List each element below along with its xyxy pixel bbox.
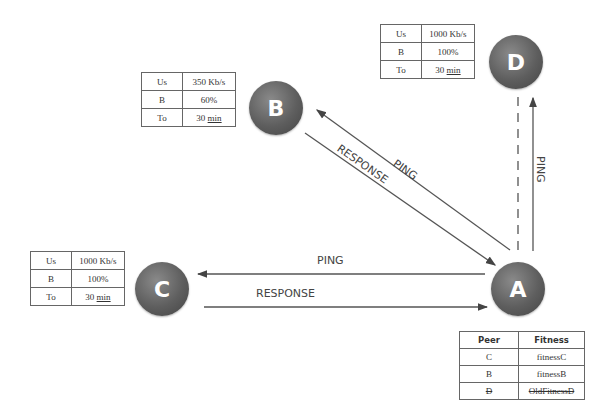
node-a-label: A <box>509 277 526 302</box>
cell-key: Us <box>142 73 183 91</box>
info-table-b: Us350 Kb/s B60% To30 min <box>141 72 236 127</box>
info-table-c: Us1000 Kb/s B100% To30 min <box>30 251 125 306</box>
value-number: 30 <box>435 65 444 75</box>
cell-peer: B <box>460 366 519 383</box>
label-a-to-c-ping: PING <box>317 254 344 267</box>
node-d-label: D <box>507 50 525 75</box>
cell-key: B <box>31 270 72 288</box>
cell-value: 100% <box>72 270 125 288</box>
node-b: B <box>249 81 303 135</box>
cell-value: 100% <box>422 43 475 61</box>
cell-fitness: fitnessB <box>519 366 585 383</box>
cell-value: 30 min <box>422 61 475 79</box>
value-unit: min <box>447 65 461 75</box>
edge-b-to-a-response <box>305 133 495 265</box>
cell-key: To <box>381 61 422 79</box>
header-fitness: Fitness <box>519 332 585 349</box>
value-number: 30 <box>196 113 205 123</box>
cell-key: To <box>142 109 183 127</box>
node-b-label: B <box>268 96 285 121</box>
cell-value: 30 min <box>72 288 125 306</box>
value-number: 30 <box>85 292 94 302</box>
cell-key: To <box>31 288 72 306</box>
cell-fitness: OldFitnessD <box>519 383 585 400</box>
table-row: B fitnessB <box>460 366 585 383</box>
node-c: C <box>135 262 189 316</box>
table-row-struck: D OldFitnessD <box>460 383 585 400</box>
header-peer: Peer <box>460 332 519 349</box>
value-unit: min <box>208 113 222 123</box>
node-a: A <box>491 262 545 316</box>
cell-value: 350 Kb/s <box>183 73 236 91</box>
cell-value: 60% <box>183 91 236 109</box>
cell-peer: D <box>460 383 519 400</box>
info-table-d: Us1000 Kb/s B100% To30 min <box>380 24 475 79</box>
cell-key: Us <box>31 252 72 270</box>
label-c-to-a-response: RESPONSE <box>256 287 315 300</box>
label-a-to-d-ping: PING <box>534 156 547 183</box>
cell-value: 30 min <box>183 109 236 127</box>
cell-peer: C <box>460 349 519 366</box>
cell-value: 1000 Kb/s <box>72 252 125 270</box>
node-c-label: C <box>154 277 170 302</box>
node-d: D <box>489 35 543 89</box>
table-row: C fitnessC <box>460 349 585 366</box>
cell-value: 1000 Kb/s <box>422 25 475 43</box>
cell-key: B <box>142 91 183 109</box>
fitness-table: Peer Fitness C fitnessC B fitnessB D Old… <box>459 331 585 400</box>
value-unit: min <box>97 292 111 302</box>
cell-key: Us <box>381 25 422 43</box>
cell-key: B <box>381 43 422 61</box>
cell-fitness: fitnessC <box>519 349 585 366</box>
